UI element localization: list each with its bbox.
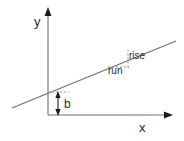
rise-label: rise bbox=[129, 51, 145, 61]
run-label: run bbox=[108, 66, 122, 76]
slope-intercept-diagram: y x b rise run bbox=[0, 0, 184, 141]
x-axis-arrowhead bbox=[164, 111, 173, 118]
y-axis-label: y bbox=[34, 15, 41, 28]
x-axis-label: x bbox=[139, 121, 146, 134]
y-axis-arrowhead bbox=[45, 7, 52, 16]
y-intercept-label: b bbox=[64, 98, 71, 110]
diagram-canvas bbox=[0, 0, 184, 141]
sloped-line bbox=[12, 41, 176, 108]
